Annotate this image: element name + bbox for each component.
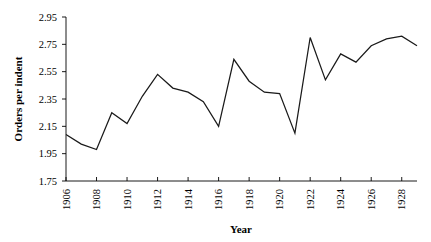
x-tick-label: 1906 [61,189,72,210]
x-tick-label: 1908 [91,189,102,210]
y-tick-label: 2.75 [39,39,57,50]
y-tick-label: 2.95 [39,12,57,23]
y-tick-label: 2.55 [39,66,57,77]
x-tick-label: 1910 [122,189,133,210]
x-tick-label: 1920 [274,189,285,210]
x-tick-label: 1918 [244,189,255,210]
x-axis-title: Year [230,223,252,235]
x-tick-label: 1916 [213,189,224,210]
y-axis-tick-marks [62,17,66,181]
x-tick-label: 1926 [366,189,377,210]
y-tick-label: 1.75 [39,176,57,187]
data-series-line [66,36,417,149]
x-axis-tick-labels: 1906190819101912191419161918192019221924… [61,188,408,210]
x-tick-label: 1922 [305,189,316,210]
y-axis-title: Orders per indent [12,56,24,141]
x-tick-label: 1914 [183,188,194,210]
x-tick-label: 1928 [396,189,407,210]
line-chart: 1.751.952.152.352.552.752.95 19061908191… [0,0,431,242]
x-tick-label: 1912 [152,189,163,210]
y-axis-tick-labels: 1.751.952.152.352.552.752.95 [39,12,57,187]
y-tick-label: 1.95 [39,148,57,159]
chart-canvas: 1.751.952.152.352.552.752.95 19061908191… [0,0,431,242]
x-tick-label: 1924 [335,188,346,210]
y-tick-label: 2.15 [39,121,57,132]
x-axis-tick-marks [66,177,402,181]
y-tick-label: 2.35 [39,94,57,105]
